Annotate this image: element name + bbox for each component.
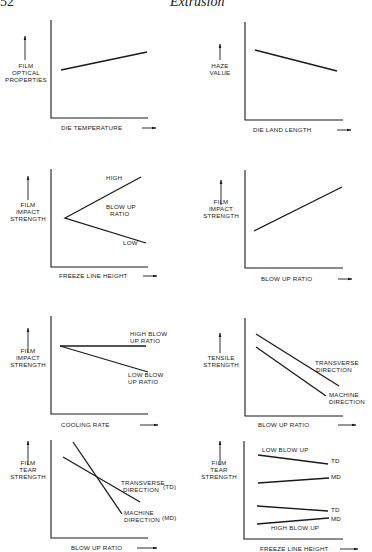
c6-transverse-2: DIRECTION [316,366,352,373]
c2-ylabel-2: VALUE [210,69,231,76]
c5-high-label-1: HIGH BLOW [130,330,167,337]
c8-ylabel-3: STRENGTH [201,473,237,480]
figure-panel: FILM OPTICAL PROPERTIES HAZE VALUE FILM … [0,0,372,552]
c7-transverse-2: DIRECTION [123,486,159,493]
c7-transverse-1: TRANSVERSE [121,479,165,486]
c8-md-low: MD [331,473,341,480]
c6-transverse-1: TRANSVERSE [315,359,359,366]
c3-low-label: LOW [123,239,138,246]
c5-high-label-2: UP RATIO [130,337,160,344]
c3-ylabel-2: IMPACT [16,208,40,215]
c5-ylabel-2: IMPACT [16,354,40,361]
c1-ylabel-2: OPTICAL [12,69,40,76]
c8-low-label: LOW BLOW UP [262,446,309,453]
c1-ylabel-1: FILM [19,62,34,69]
c3-bur-label-1: BLOW UP [106,203,136,210]
c4-ylabel-2: IMPACT [209,205,233,212]
c8-ylabel-2: TEAR [210,466,228,473]
c4-ylabel-1: FILM [214,198,229,205]
c7-machine-2: DIRECTION [124,516,160,523]
c7-ylabel-2: TEAR [19,466,37,473]
chart-die-land-length [220,22,351,130]
c5-ylabel-1: FILM [21,347,36,354]
chart-freeze-line-impact [28,169,157,276]
chart-tear-blow-up [28,440,157,548]
c7-machine-1: MACHINE [124,509,154,516]
c8-xlabel: FREEZE LINE HEIGHT [260,545,329,552]
c8-td-low: TD [331,457,340,464]
chart-die-temperature [25,20,156,128]
c3-xlabel: FREEZE LINE HEIGHT [59,272,128,279]
c8-md-high: MD [331,515,341,522]
c5-low-label-2: UP RATIO [128,378,158,385]
c4-ylabel-3: STRENGTH [203,212,239,219]
c5-xlabel: COOLING RATE [61,421,110,428]
c6-machine-2: DIRECTION [329,398,365,405]
c6-ylabel-2: STRENGTH [203,361,239,368]
c5-low-label-1: LOW BLOW [128,371,164,378]
c5-ylabel-3: STRENGTH [10,361,46,368]
c1-xlabel: DIE TEMPERATURE [61,124,122,131]
c6-xlabel: BLOW UP RATIO [258,421,309,428]
c7-xlabel: BLOW UP RATIO [71,544,122,551]
c4-xlabel: BLOW UP RATIO [261,275,312,282]
c1-ylabel-3: PROPERTIES [5,76,47,83]
c8-high-label: HIGH BLOW UP [271,524,319,531]
c3-ylabel-3: STRENGTH [10,215,46,222]
c2-ylabel-1: HAZE [211,62,228,69]
c7-ylabel-1: FILM [21,459,36,466]
c7-ylabel-3: STRENGTH [10,473,46,480]
c3-bur-label-2: RATIO [110,210,129,217]
c8-td-high: TD [331,506,340,513]
c7-md: (MD) [162,514,177,521]
c3-high-label: HIGH [106,174,122,181]
c6-ylabel-1: TENSILE [207,354,234,361]
c2-xlabel: DIE LAND LENGTH [253,126,311,133]
c3-ylabel-1: FILM [21,201,36,208]
chart-blow-up-impact [221,170,352,279]
c6-machine-1: MACHINE [329,391,359,398]
c7-td: (TD) [163,483,176,490]
c8-ylabel-1: FILM [212,459,227,466]
